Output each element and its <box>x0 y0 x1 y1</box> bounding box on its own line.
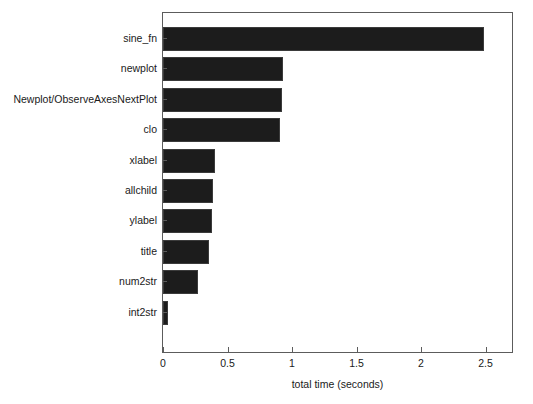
bar-clo <box>163 118 280 142</box>
bar-row <box>163 270 514 294</box>
x-tick-label-1-5: 1.5 <box>349 357 364 369</box>
bar-newplot-observeaxesnextplot <box>163 88 282 112</box>
y-tick-mark <box>162 312 167 313</box>
bar-newplot <box>163 57 283 81</box>
y-tick-label-clo: clo <box>6 123 162 135</box>
y-tick-mark <box>162 99 167 100</box>
x-tick-label-0-5: 0.5 <box>220 357 235 369</box>
x-tick-label-2: 2 <box>418 357 424 369</box>
y-tick-label-num2str: num2str <box>6 275 162 287</box>
y-tick-label-allchild: allchild <box>6 184 162 196</box>
x-tick-mark <box>357 347 358 352</box>
bar-row <box>163 209 514 233</box>
bar-xlabel <box>163 149 215 173</box>
y-tick-label-newplot-observeaxesnextplot: Newplot/ObserveAxesNextPlot <box>6 93 162 105</box>
y-tick-label-xlabel: xlabel <box>6 154 162 166</box>
x-tick-label-2-5: 2.5 <box>478 357 493 369</box>
plot-axes <box>162 12 513 353</box>
x-tick-mark <box>421 347 422 352</box>
y-tick-mark <box>162 190 167 191</box>
bar-row <box>163 118 514 142</box>
y-tick-mark <box>162 281 167 282</box>
bar-num2str <box>163 270 198 294</box>
y-tick-label-title: title <box>6 245 162 257</box>
bar-row <box>163 57 514 81</box>
x-axis-label: total time (seconds) <box>162 378 513 390</box>
y-tick-label-ylabel: ylabel <box>6 214 162 226</box>
x-tick-label-0: 0 <box>160 357 166 369</box>
y-tick-mark <box>162 251 167 252</box>
bar-row <box>163 301 514 325</box>
bar-row <box>163 179 514 203</box>
bar-int2str <box>163 301 168 325</box>
y-tick-mark <box>162 160 167 161</box>
y-tick-mark <box>162 220 167 221</box>
bar-sine-fn <box>163 27 484 51</box>
bar-ylabel <box>163 209 212 233</box>
bar-row <box>163 27 514 51</box>
x-tick-mark <box>486 347 487 352</box>
x-tick-mark <box>292 347 293 352</box>
y-tick-label-int2str: int2str <box>6 306 162 318</box>
bar-row <box>163 88 514 112</box>
y-tick-label-newplot: newplot <box>6 62 162 74</box>
bar-row <box>163 240 514 264</box>
y-tick-mark <box>162 68 167 69</box>
plot-surface <box>163 13 512 352</box>
bar-allchild <box>163 179 213 203</box>
y-tick-label-sine-fn: sine_fn <box>6 32 162 44</box>
bar-row <box>163 149 514 173</box>
x-tick-mark <box>163 347 164 352</box>
x-tick-label-1: 1 <box>289 357 295 369</box>
y-tick-mark <box>162 38 167 39</box>
figure-canvas: sine_fnnewplotNewplot/ObserveAxesNextPlo… <box>0 0 533 404</box>
x-tick-mark <box>228 347 229 352</box>
bar-title <box>163 240 209 264</box>
y-tick-mark <box>162 129 167 130</box>
